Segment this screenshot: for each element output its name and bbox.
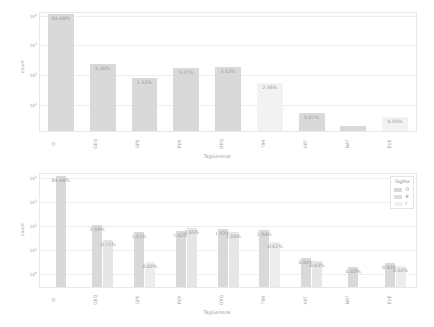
- bar-nat[interactable]: [340, 126, 366, 131]
- bar-slot-per: 5.27%: [165, 13, 207, 131]
- bar-art-tagpos-i[interactable]: 0.03%: [312, 261, 322, 287]
- bar-value-per: 5.27%: [179, 70, 194, 75]
- plot-area-top: 104 103 102 101 84.68% 4.30%: [39, 12, 417, 132]
- xtick-art: ART: [291, 135, 333, 153]
- bar-slot-nat: 0.02%: [332, 174, 374, 287]
- legend-tagpos[interactable]: TagPos O B I: [390, 176, 414, 209]
- legend-label-o: O: [405, 187, 409, 192]
- plot-area-bottom: 104 103 102 101 100 84.68% 3.59%: [39, 173, 417, 288]
- ytick-exp: 2: [35, 72, 37, 76]
- legend-label-i: I: [405, 201, 406, 206]
- bar-eve[interactable]: 0.05%: [382, 117, 408, 131]
- chart-tag-general-by-tagpos: 104 103 102 101 100 84.68% 3.59%: [0, 167, 434, 327]
- bar-per-tagpos-b[interactable]: 1.62%: [176, 231, 186, 287]
- xtick-art: ART: [291, 291, 333, 309]
- xtick-gpe: GPE: [123, 135, 165, 153]
- bar-o[interactable]: 84.68%: [48, 14, 74, 131]
- xtick-label: GEO: [93, 139, 111, 149]
- bar-art[interactable]: 0.07%: [299, 113, 325, 131]
- x-ticks-top: O GEO GPE PER ORG TIM ART NAT EVE: [39, 135, 417, 153]
- bar-nat-tagpos-b[interactable]: 0.02%: [348, 267, 358, 287]
- bar-slot-geo: 3.59% 0.71%: [82, 174, 124, 287]
- bar-value-per-tagpos-i: 3.65%: [184, 230, 199, 235]
- bar-gpe[interactable]: 1.53%: [132, 78, 158, 131]
- bar-value-eve: 0.05%: [388, 119, 403, 124]
- bar-tim-tagpos-i[interactable]: 0.62%: [270, 242, 280, 287]
- legend-item-i[interactable]: I: [394, 201, 410, 206]
- ytick-bottom-10e2: 102: [29, 223, 37, 229]
- bar-geo[interactable]: 4.30%: [90, 64, 116, 131]
- xtick-eve: EVE: [375, 291, 417, 309]
- bar-slot-org: 1.92% 1.60%: [207, 174, 249, 287]
- bar-value-geo-tagpos-b: 3.59%: [90, 227, 105, 232]
- legend-item-b[interactable]: B: [394, 194, 410, 199]
- bar-gpe-tagpos-i[interactable]: 0.02%: [145, 262, 155, 287]
- bar-org[interactable]: 3.52%: [215, 67, 241, 131]
- bar-per-tagpos-i[interactable]: 3.65%: [187, 228, 197, 287]
- bar-slot-org: 3.52%: [207, 13, 249, 131]
- xtick-label: ORG: [219, 295, 237, 305]
- bar-value-gpe-tagpos-b: 1.51%: [131, 234, 146, 239]
- bar-org-tagpos-i[interactable]: 1.60%: [229, 232, 239, 287]
- bar-slot-o: 84.68%: [40, 174, 82, 287]
- bar-value-gpe: 1.53%: [137, 80, 152, 85]
- bar-value-nat-tagpos-b: 0.02%: [346, 269, 361, 274]
- xtick-nat: NAT: [333, 135, 375, 153]
- chart-tag-general-counts: 104 103 102 101 84.68% 4.30%: [0, 2, 434, 165]
- bar-value-tim: 2.56%: [262, 85, 277, 90]
- ytick-top-10e4: 104: [29, 13, 37, 19]
- figure-canvas: 104 103 102 101 84.68% 4.30%: [0, 0, 434, 327]
- bar-geo-tagpos-b[interactable]: 3.59%: [92, 225, 102, 287]
- bar-eve-tagpos-b[interactable]: 0.03%: [385, 263, 395, 287]
- ytick-exp: 4: [35, 13, 37, 17]
- bar-slot-art: 0.04% 0.03%: [291, 174, 333, 287]
- bar-per[interactable]: 5.27%: [173, 68, 199, 131]
- bar-slot-gpe: 1.53%: [124, 13, 166, 131]
- xtick-org: ORG: [207, 291, 249, 309]
- xtick-per: PER: [165, 291, 207, 309]
- bar-slot-per: 1.62% 3.65%: [165, 174, 207, 287]
- bar-value-eve-tagpos-i: 0.02%: [393, 268, 408, 273]
- bar-value-o-tagpos-o: 84.68%: [52, 178, 70, 183]
- xtick-label: ORG: [219, 139, 237, 149]
- bar-slot-art: 0.07%: [291, 13, 333, 131]
- xtick-gpe: GPE: [123, 291, 165, 309]
- bar-group-top: 84.68% 4.30% 1.53% 5.27%: [40, 13, 416, 131]
- ytick-bottom-10e4: 104: [29, 175, 37, 181]
- bar-tim-tagpos-b[interactable]: 1.94%: [259, 230, 269, 287]
- ytick-exp: 4: [35, 175, 37, 179]
- bar-value-gpe-tagpos-i: 0.02%: [142, 264, 157, 269]
- xtick-geo: GEO: [81, 135, 123, 153]
- xtick-label: O: [51, 298, 69, 302]
- ytick-bottom-10e1: 101: [29, 247, 37, 253]
- ytick-bottom-10e3: 103: [29, 199, 37, 205]
- xtick-label: PER: [177, 140, 195, 149]
- bar-slot-geo: 4.30%: [82, 13, 124, 131]
- xtick-label: GPE: [135, 139, 153, 148]
- x-ticks-bottom: O GEO GPE PER ORG TIM ART NAT EVE: [39, 291, 417, 309]
- xtick-nat: NAT: [333, 291, 375, 309]
- bar-slot-nat: [332, 13, 374, 131]
- bar-value-org: 3.52%: [220, 69, 235, 74]
- bar-o-tagpos-o[interactable]: 84.68%: [56, 176, 66, 287]
- y-axis-title-bottom: count: [20, 215, 25, 245]
- bar-geo-tagpos-i[interactable]: 0.71%: [103, 240, 113, 287]
- bar-tim[interactable]: 2.56%: [257, 83, 283, 131]
- bar-group-bottom: 84.68% 3.59% 0.71% 1.51%: [40, 174, 416, 287]
- xtick-label: NAT: [345, 139, 363, 148]
- ytick-exp: 2: [35, 223, 37, 227]
- bar-slot-tim: 2.56%: [249, 13, 291, 131]
- bar-eve-tagpos-i[interactable]: 0.02%: [396, 266, 406, 287]
- bar-value-o: 84.68%: [52, 16, 70, 21]
- ytick-exp: 1: [35, 247, 37, 251]
- bar-slot-tim: 1.94% 0.62%: [249, 174, 291, 287]
- xtick-label: GPE: [135, 295, 153, 304]
- legend-swatch-icon: [394, 195, 402, 199]
- bar-value-art-tagpos-i: 0.03%: [310, 263, 325, 268]
- bar-gpe-tagpos-b[interactable]: 1.51%: [134, 232, 144, 287]
- legend-item-o[interactable]: O: [394, 187, 410, 192]
- xtick-label: PER: [177, 296, 195, 305]
- y-axis-title-top: count: [20, 52, 25, 82]
- xtick-label: NAT: [345, 295, 363, 304]
- x-axis-title-bottom: TagGeneral: [0, 310, 434, 315]
